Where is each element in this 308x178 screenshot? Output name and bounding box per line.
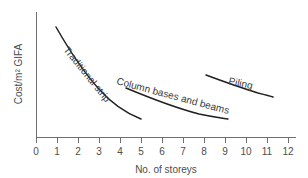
- x-tick-label: 5: [138, 146, 144, 157]
- x-tick-label: 10: [240, 146, 252, 157]
- x-tick-label: 7: [180, 146, 186, 157]
- series-label-piling: Piling: [228, 75, 254, 91]
- x-tick-label: 12: [282, 146, 294, 157]
- x-axis-ticks: [36, 137, 288, 143]
- series-curve-traditional-strip: [56, 27, 141, 119]
- x-tick-label: 4: [117, 146, 123, 157]
- x-tick-label: 11: [262, 146, 273, 157]
- x-tick-label: 0: [33, 146, 39, 157]
- x-tick-label: 3: [96, 146, 102, 157]
- x-tick-label: 8: [201, 146, 207, 157]
- chart-canvas: 0 1 2 3 4 5 6 7 8 9 10 11 12 No. of stor…: [0, 0, 308, 178]
- series-label-traditional-strip: Traditional strip: [61, 44, 113, 104]
- y-axis-title: Cost/m² GIFA: [13, 43, 24, 104]
- x-tick-label: 1: [54, 146, 60, 157]
- x-tick-labels: 0 1 2 3 4 5 6 7 8 9 10 11 12: [33, 146, 294, 157]
- cost-vs-storeys-chart: 0 1 2 3 4 5 6 7 8 9 10 11 12 No. of stor…: [0, 0, 308, 178]
- x-axis-title: No. of storeys: [135, 164, 197, 175]
- x-tick-label: 2: [75, 146, 81, 157]
- series-label-column-bases-and-beams: Column bases and beams: [115, 75, 230, 116]
- x-tick-label: 6: [159, 146, 165, 157]
- x-tick-label: 9: [222, 146, 228, 157]
